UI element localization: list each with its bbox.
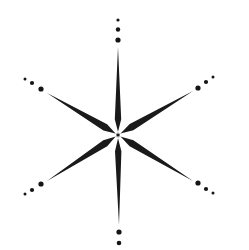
dot-group-lower-right	[195, 180, 214, 194]
star-rays	[47, 47, 193, 225]
dot	[30, 188, 34, 192]
dot-group-upper-right	[195, 76, 214, 91]
dot	[115, 37, 120, 42]
dot-group-upper-left	[24, 78, 44, 92]
dot-group-lower-left	[24, 181, 44, 195]
ray-lower-left	[47, 134, 118, 181]
dot	[204, 80, 208, 84]
dot	[212, 192, 215, 195]
dot	[38, 86, 43, 91]
dot	[38, 181, 43, 186]
ray-top	[115, 47, 121, 135]
star-diagram	[0, 0, 249, 250]
dot	[24, 78, 27, 81]
ray-bottom	[115, 135, 121, 225]
dot	[116, 27, 120, 31]
dot	[204, 187, 208, 191]
ray-upper-left	[47, 93, 118, 136]
dot	[30, 81, 34, 85]
ray-lower-right	[118, 134, 193, 181]
dot	[117, 241, 122, 246]
dot-group-bottom	[116, 229, 121, 245]
dot	[116, 229, 121, 234]
dot	[195, 180, 200, 185]
dot	[212, 76, 215, 79]
dot-group-top	[115, 18, 120, 42]
ray-upper-right	[118, 91, 193, 136]
dot	[195, 85, 200, 90]
dot	[24, 193, 27, 196]
dot	[116, 18, 119, 21]
